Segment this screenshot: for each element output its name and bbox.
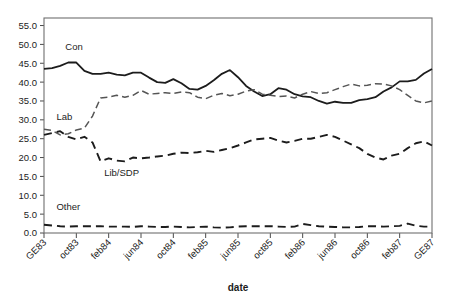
series-line-lib-sdp bbox=[44, 131, 432, 161]
x-axis-title: date bbox=[228, 282, 249, 293]
x-tick-label: feb85 bbox=[185, 237, 210, 262]
x-tick-label: jun85 bbox=[217, 237, 242, 262]
x-tick-label: feb84 bbox=[88, 237, 113, 262]
x-tick-label: GE83 bbox=[23, 237, 48, 262]
line-chart: 0.05.010.015.020.025.030.035.040.045.050… bbox=[0, 0, 449, 303]
y-tick-label: 45.0 bbox=[19, 58, 38, 69]
series-line-other bbox=[44, 224, 432, 228]
x-tick-label: oct84 bbox=[154, 237, 178, 261]
x-axis-ticks: GE83oct83feb84jun84oct84feb85jun85oct85f… bbox=[23, 233, 436, 262]
series-label-con: Con bbox=[65, 41, 82, 52]
y-axis-ticks: 0.05.010.015.020.025.030.035.040.045.050… bbox=[19, 20, 45, 238]
y-tick-label: 15.0 bbox=[19, 171, 38, 182]
y-tick-label: 50.0 bbox=[19, 39, 38, 50]
x-tick-label: oct86 bbox=[348, 237, 372, 261]
y-tick-label: 10.0 bbox=[19, 190, 38, 201]
y-tick-label: 55.0 bbox=[19, 20, 38, 31]
y-tick-label: 35.0 bbox=[19, 95, 38, 106]
x-tick-label: GE87 bbox=[411, 237, 436, 262]
y-tick-label: 30.0 bbox=[19, 114, 38, 125]
y-tick-label: 5.0 bbox=[24, 209, 37, 220]
series-label-lab: Lab bbox=[56, 111, 72, 122]
series-label-other: Other bbox=[56, 201, 80, 212]
series-label-lib-sdp: Lib/SDP bbox=[104, 167, 139, 178]
chart-container: 0.05.010.015.020.025.030.035.040.045.050… bbox=[0, 0, 449, 303]
series-line-lab bbox=[44, 84, 432, 135]
y-tick-label: 25.0 bbox=[19, 133, 38, 144]
x-tick-label: oct85 bbox=[251, 237, 275, 261]
x-tick-label: feb87 bbox=[379, 237, 404, 262]
y-tick-label: 20.0 bbox=[19, 152, 38, 163]
x-tick-label: jun84 bbox=[120, 237, 145, 262]
x-tick-label: jun86 bbox=[314, 237, 339, 262]
x-tick-label: oct83 bbox=[57, 237, 81, 261]
y-tick-label: 0.0 bbox=[24, 227, 37, 238]
x-tick-label: feb86 bbox=[282, 237, 307, 262]
series-inline-labels: ConLabLib/SDPOther bbox=[56, 41, 139, 212]
plot-frame bbox=[44, 18, 432, 233]
series-lines bbox=[44, 63, 432, 228]
y-tick-label: 40.0 bbox=[19, 77, 38, 88]
